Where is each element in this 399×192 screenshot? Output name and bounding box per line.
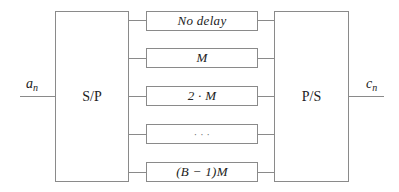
branch-3-left-connector (129, 134, 146, 135)
input-signal-sub: n (33, 82, 38, 93)
output-line (349, 96, 384, 97)
branch-0-left-connector (129, 20, 146, 21)
delay-label-1: M (146, 48, 258, 68)
output-signal-label: cn (366, 76, 377, 93)
branch-4-right-connector (258, 172, 274, 173)
delay-label-2: 2 · M (146, 86, 258, 106)
branch-4-left-connector (129, 172, 146, 173)
input-signal-base: a (26, 76, 33, 91)
delay-label-3: · · · (146, 124, 258, 144)
branch-2-left-connector (129, 96, 146, 97)
input-line (20, 96, 55, 97)
input-signal-label: an (26, 76, 38, 93)
serial-to-parallel-label: S/P (55, 86, 129, 108)
branch-0-right-connector (258, 20, 274, 21)
branch-3-right-connector (258, 134, 274, 135)
delay-label-4: (B − 1)M (146, 162, 258, 182)
branch-2-right-connector (258, 96, 274, 97)
output-signal-sub: n (372, 82, 377, 93)
delay-label-0: No delay (146, 11, 258, 31)
parallel-to-serial-label: P/S (274, 86, 349, 108)
branch-1-right-connector (258, 58, 274, 59)
branch-1-left-connector (129, 58, 146, 59)
